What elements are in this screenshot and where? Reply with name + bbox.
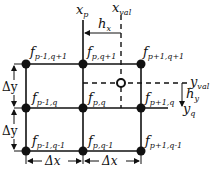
hx-label: hx xyxy=(98,16,111,33)
interpolation-grid-diagram: xp xval yval yq hx hy Δy Δy Δx Δx fp-1,q… xyxy=(0,0,220,174)
dx-dimension xyxy=(26,155,141,164)
node-label: fp+1,q+1 xyxy=(142,44,184,61)
node-label: fp-1,q+1 xyxy=(29,44,67,61)
node-label: fp+1,q xyxy=(144,90,174,107)
diagram-canvas: xp xval yval yq hx hy Δy Δy Δx Δx fp-1,q… xyxy=(0,0,220,174)
interpolation-point xyxy=(117,79,125,87)
node-label: fp,q+1 xyxy=(86,44,116,61)
dy-label-upper: Δy xyxy=(2,80,18,94)
node-label: fp-1,q-1 xyxy=(31,133,65,150)
xp-label: xp xyxy=(76,2,88,19)
dx-label-right: Δx xyxy=(101,154,118,168)
grid-lines xyxy=(26,20,168,151)
node-label: fp,q xyxy=(87,90,106,107)
node-label: fp+1,q-1 xyxy=(144,133,182,150)
dx-label-left: Δx xyxy=(44,154,61,168)
yq-label: yq xyxy=(182,101,195,118)
node-label: fp-1,q xyxy=(31,90,57,107)
xval-label: xval xyxy=(112,0,132,17)
dy-label-lower: Δy xyxy=(2,124,18,138)
node-label: fp,q-1 xyxy=(87,133,113,150)
